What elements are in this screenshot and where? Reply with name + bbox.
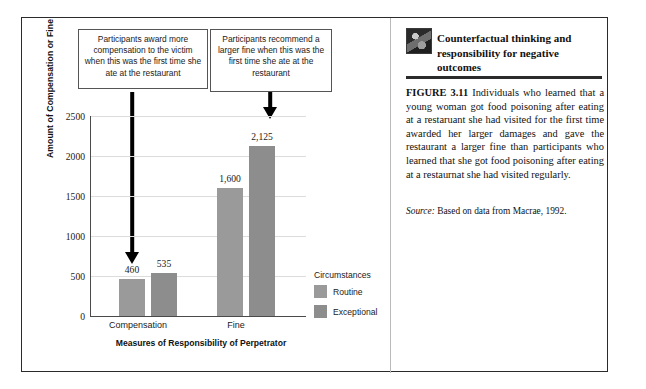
caption-panel: Counterfactual thinking and responsibili… [391, 18, 609, 373]
y-axis-tick-label: 0 [41, 311, 85, 322]
y-axis-tick-label: 1500 [41, 191, 85, 202]
caption-source-text: Based on data from Macrae, 1992. [437, 206, 566, 216]
caption-rule [406, 76, 602, 79]
legend-item: Exceptional [314, 305, 390, 318]
legend-label: Exceptional [333, 307, 377, 317]
bar [151, 273, 177, 316]
legend-label: Routine [333, 287, 363, 297]
bar [119, 279, 145, 316]
caption-body-text: Individuals who learned that a young wom… [406, 87, 604, 180]
x-axis-title: Measures of Responsibility of Perpetrato… [86, 338, 316, 348]
chapter-thumbnail-image [406, 28, 432, 54]
figure-frame: Participants award more compensation to … [21, 17, 608, 372]
caption-body: FIGURE 3.11 Individuals who learned that… [406, 86, 604, 181]
legend-swatch [314, 305, 327, 318]
legend-swatch [314, 285, 327, 298]
y-axis-tick-label: 1000 [41, 231, 85, 242]
caption-heading: Counterfactual thinking and responsibili… [437, 31, 602, 75]
x-axis-category-label: Compensation [83, 320, 193, 330]
callout-fine: Participants recommend a larger fine whe… [210, 29, 332, 92]
gridline [91, 116, 306, 117]
caption-source: Source: Based on data from Macrae, 1992. [406, 206, 604, 216]
bar [249, 146, 275, 316]
chart-panel: Participants award more compensation to … [22, 18, 390, 373]
y-axis-title: Amount of Compensation or Fine [45, 0, 55, 158]
callout-compensation: Participants award more compensation to … [78, 29, 208, 89]
caption-source-label: Source: [406, 206, 435, 216]
x-axis-category-label: Fine [181, 320, 291, 330]
y-axis-tick-label: 2500 [41, 111, 85, 122]
legend-item: Routine [314, 285, 390, 298]
y-axis-tick-label: 500 [41, 271, 85, 282]
y-axis-tick-label: 2000 [41, 151, 85, 162]
legend-title: Circumstances [314, 270, 390, 280]
figure-number: FIGURE 3.11 [406, 87, 468, 98]
bar-value-label: 2,125 [235, 131, 289, 142]
legend-rows: RoutineExceptional [314, 285, 390, 318]
plot-area: Amount of Compensation or Fine 050010001… [90, 116, 306, 317]
bar [217, 188, 243, 316]
legend: Circumstances RoutineExceptional [314, 270, 390, 325]
bar-value-label: 535 [137, 258, 191, 269]
